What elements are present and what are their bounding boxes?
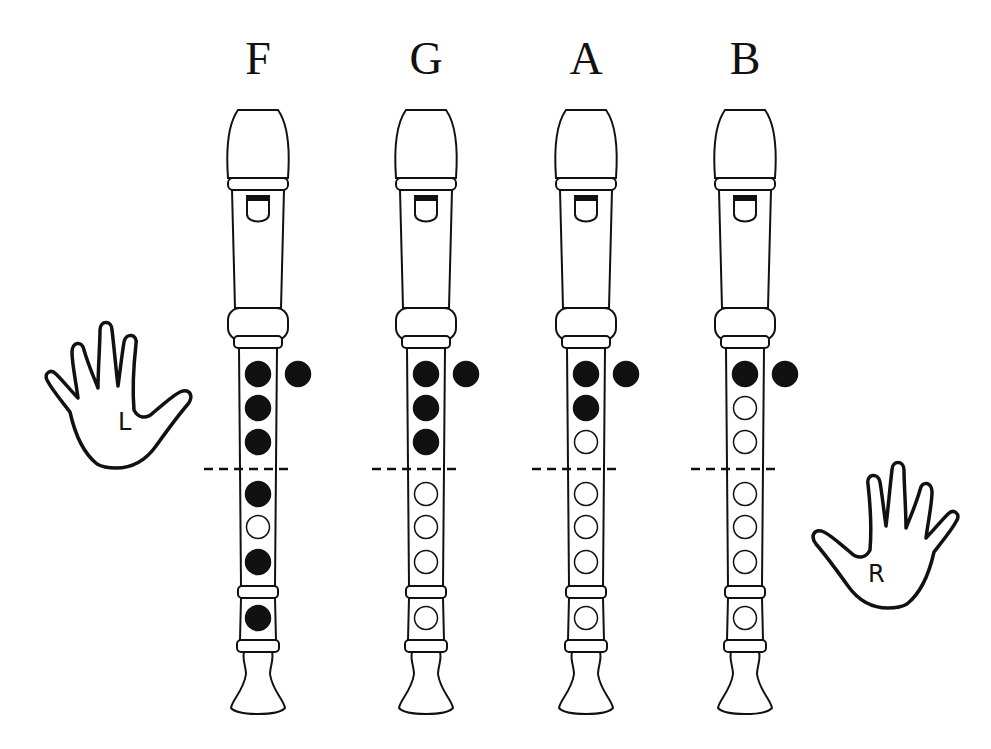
thumb-hole-closed [614,362,639,387]
recorder-collar [396,178,456,190]
finger-hole-4-open [415,483,438,506]
recorder-bell [399,652,453,714]
finger-hole-5-open [415,516,438,539]
finger-hole-7-open [575,607,598,630]
recorder-bell [231,652,285,714]
finger-hole-2-closed [246,396,271,421]
note-label-b: B [705,36,785,82]
left-hand-letter: L [118,408,131,436]
finger-hole-1-closed [733,362,758,387]
finger-hole-3-closed [414,430,439,455]
finger-hole-5-open [734,516,757,539]
finger-hole-1-closed [574,362,599,387]
recorder-a [516,100,656,740]
finger-hole-5-open [575,516,598,539]
recorder-bell [718,652,772,714]
finger-hole-3-closed [246,430,271,455]
right-hand-icon: R [792,452,962,622]
recorder-head [227,110,288,178]
recorder-bell [559,652,613,714]
note-label-f: F [218,36,298,82]
finger-hole-2-open [734,397,757,420]
finger-hole-3-open [575,431,598,454]
recorder-collar [715,178,775,190]
finger-hole-3-open [734,431,757,454]
finger-hole-2-closed [574,396,599,421]
right-hand-letter: R [868,560,885,588]
finger-hole-1-closed [414,362,439,387]
finger-hole-1-closed [246,362,271,387]
thumb-hole-closed [286,362,311,387]
finger-hole-6-open [734,551,757,574]
left-hand-icon: L [42,312,212,482]
note-label-a: A [546,36,626,82]
finger-hole-4-open [734,483,757,506]
finger-hole-6-open [415,551,438,574]
finger-hole-7-closed [246,606,271,631]
finger-hole-7-open [734,607,757,630]
thumb-hole-closed [454,362,479,387]
finger-hole-4-closed [246,482,271,507]
recorder-b [675,100,815,740]
finger-hole-2-closed [414,396,439,421]
recorder-head [555,110,616,178]
finger-hole-6-open [575,551,598,574]
recorder-collar [228,178,288,190]
finger-hole-5-open [247,516,270,539]
note-label-g: G [386,36,466,82]
finger-hole-6-closed [246,550,271,575]
recorder-collar [556,178,616,190]
thumb-hole-closed [773,362,798,387]
recorder-g [356,100,496,740]
recorder-head [395,110,456,178]
fingering-chart: F G A B L R [0,0,991,749]
finger-hole-4-open [575,483,598,506]
recorder-head [714,110,775,178]
finger-hole-7-open [415,607,438,630]
